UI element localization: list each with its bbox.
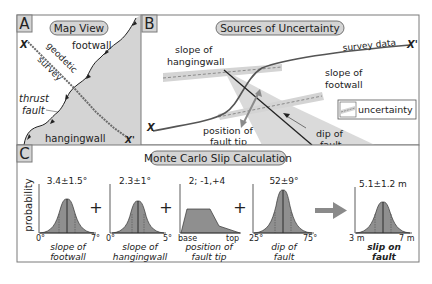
- panel-b-title: Sources of Uncertainty: [220, 22, 340, 34]
- svg-text:0°: 0°: [36, 234, 45, 243]
- legend: uncertainty: [338, 100, 416, 119]
- svg-text:75°: 75°: [303, 234, 317, 243]
- panel-a-map-view: A Map View X footwall geodetic survey th…: [17, 15, 141, 145]
- label-tip-1: position of: [203, 125, 253, 136]
- svg-text:slope of: slope of: [50, 242, 87, 252]
- panel-a-title: Map View: [54, 22, 105, 34]
- svg-text:7°: 7°: [91, 234, 100, 243]
- svg-text:2.3±1°: 2.3±1°: [119, 176, 151, 186]
- svg-text:slip on: slip on: [367, 242, 401, 252]
- panel-a-letter: A: [19, 15, 30, 33]
- label-slope-fw-1: slope of: [325, 67, 363, 78]
- label-slope-hw-2: hangingwall: [167, 56, 224, 67]
- svg-text:5°: 5°: [163, 234, 172, 243]
- legend-label: uncertainty: [358, 104, 413, 115]
- svg-text:52±9°: 52±9°: [269, 176, 298, 186]
- label-hangingwall: hangingwall: [45, 133, 105, 144]
- figure: A Map View X footwall geodetic survey th…: [0, 0, 432, 284]
- svg-text:fault tip: fault tip: [191, 252, 226, 262]
- panel-c-title: Monte Carlo Slip Calculation: [144, 152, 292, 164]
- label-footwall: footwall: [72, 40, 112, 51]
- panel-c-letter: C: [19, 145, 29, 163]
- label-x-end: X': [124, 135, 135, 145]
- panel-b-uncertainty: B Sources of Uncertainty survey data X' …: [141, 15, 419, 150]
- svg-text:dip of: dip of: [271, 242, 298, 252]
- svg-text:0°: 0°: [106, 234, 115, 243]
- label-x-start: X: [146, 122, 156, 133]
- panel-c-monte-carlo: C Monte Carlo Slip Calculation probabili…: [17, 145, 419, 262]
- svg-text:25°: 25°: [249, 234, 263, 243]
- svg-text:position of: position of: [184, 242, 234, 252]
- label-slope-hw-1: slope of: [175, 44, 213, 55]
- y-axis-label: probability: [23, 178, 34, 231]
- svg-text:2; -1,+4: 2; -1,+4: [189, 176, 226, 186]
- svg-text:slope of: slope of: [122, 242, 159, 252]
- label-x-start: X: [19, 39, 29, 50]
- label-fault: fault: [22, 105, 46, 116]
- label-slope-fw-2: footwall: [325, 79, 363, 90]
- svg-text:fault: fault: [372, 252, 396, 262]
- panel-b-letter: B: [144, 15, 154, 33]
- label-dip-1: dip of: [316, 128, 344, 139]
- svg-text:footwall: footwall: [50, 252, 86, 262]
- plus-operator: +: [89, 198, 102, 217]
- svg-text:5.1±1.2 m: 5.1±1.2 m: [359, 179, 407, 189]
- plus-operator: +: [233, 198, 246, 217]
- label-x-end: X': [406, 39, 418, 50]
- svg-text:3 m: 3 m: [349, 234, 365, 243]
- plus-operator: +: [159, 198, 172, 217]
- svg-text:3.4±1.5°: 3.4±1.5°: [47, 176, 88, 186]
- label-thrust: thrust: [19, 93, 50, 104]
- svg-text:7 m: 7 m: [399, 234, 415, 243]
- svg-text:fault: fault: [274, 252, 295, 262]
- svg-text:hangingwall: hangingwall: [113, 252, 168, 262]
